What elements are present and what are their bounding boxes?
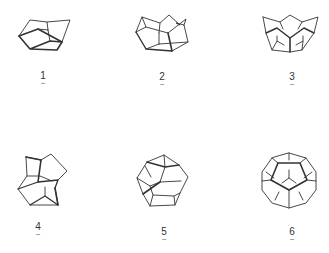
label-underline: ~	[36, 81, 50, 87]
label-underline: ~	[285, 82, 299, 88]
structure-6-label: 6 ~	[285, 227, 299, 243]
structure-3-drawing	[263, 15, 318, 52]
polyhedra-figure: 1 ~ 2 ~ 3 ~ 4 ~ 5 ~ 6 ~	[0, 0, 329, 253]
structure-5-drawing	[137, 155, 188, 206]
label-underline: ~	[285, 237, 299, 243]
label-underline: ~	[155, 82, 169, 88]
structure-6-drawing	[262, 153, 316, 208]
structure-1-drawing	[19, 20, 70, 50]
structure-4-label: 4 ~	[31, 222, 45, 238]
structure-2-label: 2 ~	[155, 72, 169, 88]
structure-1-label: 1 ~	[36, 71, 50, 87]
structures-drawing	[0, 0, 329, 253]
structure-2-drawing	[136, 15, 188, 51]
label-underline: ~	[157, 237, 171, 243]
structure-5-label: 5 ~	[157, 227, 171, 243]
label-underline: ~	[31, 232, 45, 238]
structure-3-label: 3 ~	[285, 72, 299, 88]
structure-4-drawing	[18, 154, 67, 205]
